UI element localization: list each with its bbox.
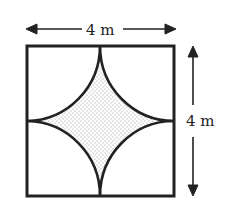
shaded-region	[26, 46, 175, 196]
geometry-diagram: 4 m 4 m	[0, 0, 225, 204]
height-label: 4 m	[186, 112, 215, 130]
width-label: 4 m	[86, 21, 115, 39]
